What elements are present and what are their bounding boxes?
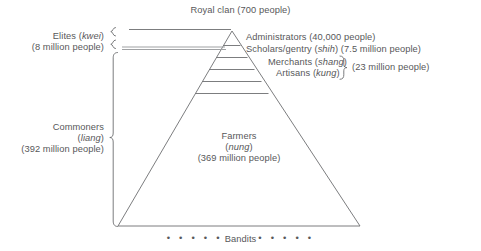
farmers-line2: (nung) (118, 142, 360, 153)
tier-label-scholars-gentry: Scholars/gentry (shih) (7.5 million peop… (246, 44, 421, 55)
commoners-group-line3: (392 million people) (0, 144, 104, 155)
commoners-group-line2: (liang) (0, 133, 104, 144)
social-pyramid-figure: Royal clan (700 people) Elites (kwei) (8… (0, 0, 481, 251)
tier-label-merchants: Merchants (shang) (268, 57, 347, 68)
tier-label-farmers: Farmers (nung) (369 million people) (118, 131, 360, 165)
bandits-right-dots: • • • • • (258, 232, 314, 243)
bandits-left-dots: • • • • • (167, 232, 223, 243)
elites-group-label: Elites (kwei) (8 million people) (0, 31, 104, 53)
farmers-line3: (369 million people) (118, 153, 360, 164)
bracket-elites (111, 28, 116, 37)
elites-group-line2: (8 million people) (0, 42, 104, 53)
elites-group-line1: Elites (kwei) (0, 31, 104, 42)
merchants-artisans-total-label: (23 million people) (352, 62, 429, 73)
bracket-commoners (110, 53, 118, 227)
commoners-group-line1: Commoners (0, 122, 104, 133)
bracket-elites-lower (111, 40, 116, 49)
tier-label-artisans: Artisans (kung) (276, 68, 340, 79)
bandits-row: • • • • •Bandits• • • • • (0, 232, 481, 245)
farmers-line1: Farmers (118, 131, 360, 142)
royal-clan-caption: Royal clan (700 people) (0, 5, 481, 16)
tier-label-administrators: Administrators (40,000 people) (246, 32, 376, 43)
bandits-label: Bandits (223, 234, 259, 244)
commoners-group-label: Commoners (liang) (392 million people) (0, 122, 104, 156)
